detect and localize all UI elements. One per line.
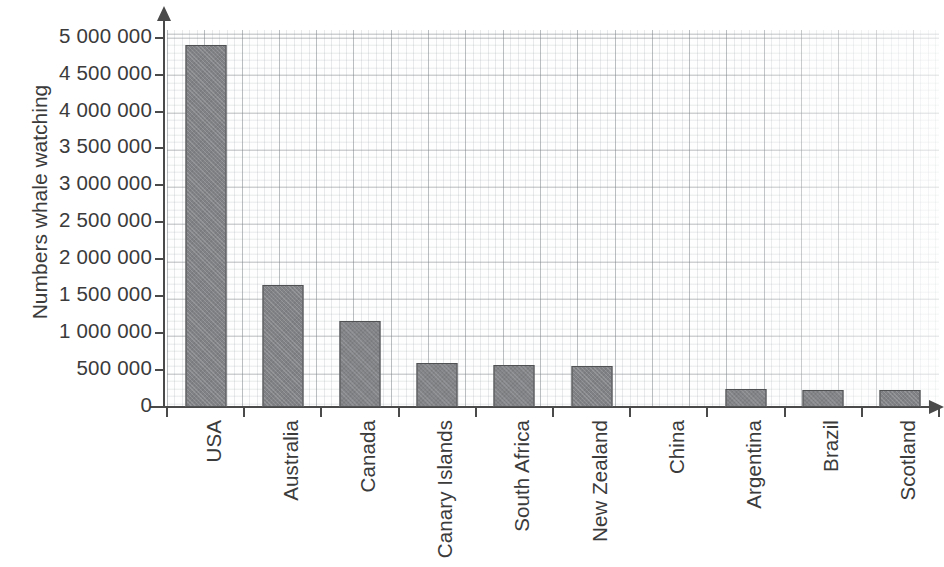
bar[interactable] xyxy=(417,363,458,407)
x-axis-tick xyxy=(320,406,322,417)
y-axis-tick-label: 3 000 000 xyxy=(9,171,152,195)
bar[interactable] xyxy=(262,285,303,407)
y-axis-tick xyxy=(155,406,165,408)
y-axis-tick xyxy=(155,258,165,260)
x-axis-tick xyxy=(706,406,708,417)
bar-slot xyxy=(167,30,244,407)
x-axis-tick-label: Argentina xyxy=(742,420,766,509)
bar-slot xyxy=(244,30,321,407)
x-axis-tick-label: Scotland xyxy=(896,420,920,501)
x-axis-tick-label: USA xyxy=(202,420,226,462)
y-axis-tick xyxy=(155,369,165,371)
x-axis-tick xyxy=(861,406,863,417)
bar-slot xyxy=(476,30,553,407)
y-axis-tick xyxy=(155,111,165,113)
y-axis-tick xyxy=(155,221,165,223)
x-axis-tick-label: South Africa xyxy=(510,420,534,532)
bar[interactable] xyxy=(880,390,921,407)
bar[interactable] xyxy=(725,389,766,407)
x-axis-tick-label: China xyxy=(665,420,689,474)
y-axis-tick-label: 1 000 000 xyxy=(9,319,152,343)
y-axis-tick xyxy=(155,74,165,76)
y-axis-tick-label: 1 500 000 xyxy=(9,282,152,306)
x-axis-tick xyxy=(243,406,245,417)
x-axis-tick xyxy=(166,406,168,417)
x-axis-tick xyxy=(629,406,631,417)
y-axis-tick xyxy=(155,295,165,297)
x-axis-tick xyxy=(938,406,940,417)
y-axis-tick xyxy=(155,147,165,149)
bar-slot xyxy=(862,30,939,407)
y-axis-tick-label: 4 500 000 xyxy=(9,61,152,85)
y-axis-arrow-icon xyxy=(157,6,171,21)
y-axis-tick xyxy=(155,332,165,334)
y-axis-tick-label: 500 000 xyxy=(9,356,152,380)
x-axis-tick-label: Australia xyxy=(279,420,303,501)
bar[interactable] xyxy=(339,321,380,407)
bar-slot xyxy=(707,30,784,407)
y-axis-tick xyxy=(155,37,165,39)
y-axis-tick-label: 2 500 000 xyxy=(9,208,152,232)
bar-slot xyxy=(630,30,707,407)
y-axis-tick xyxy=(155,184,165,186)
x-axis-tick xyxy=(398,406,400,417)
x-axis-tick-label: Brazil xyxy=(819,420,843,472)
x-axis-tick xyxy=(784,406,786,417)
y-axis-tick-label: 4 000 000 xyxy=(9,98,152,122)
bar-slot xyxy=(399,30,476,407)
x-axis-tick-label: Canada xyxy=(356,420,380,492)
bar-slot xyxy=(321,30,398,407)
bar[interactable] xyxy=(185,45,226,407)
bar-slot xyxy=(553,30,630,407)
x-axis-tick xyxy=(475,406,477,417)
x-axis-tick-label: Canary Islands xyxy=(433,420,457,558)
x-axis-tick-label: New Zealand xyxy=(588,420,612,542)
y-axis-tick-label: 2 000 000 xyxy=(9,245,152,269)
y-axis-tick-label: 3 500 000 xyxy=(9,134,152,158)
y-axis-tick-label: 0 xyxy=(9,393,152,417)
y-axis-labels: 0500 0001 000 0001 500 0002 000 0002 500… xyxy=(0,0,152,420)
y-axis-tick-label: 5 000 000 xyxy=(9,24,152,48)
bar-series xyxy=(167,30,939,407)
bar[interactable] xyxy=(571,366,612,407)
bar-slot xyxy=(785,30,862,407)
bar[interactable] xyxy=(494,365,535,407)
bar[interactable] xyxy=(803,390,844,407)
x-axis-tick xyxy=(552,406,554,417)
